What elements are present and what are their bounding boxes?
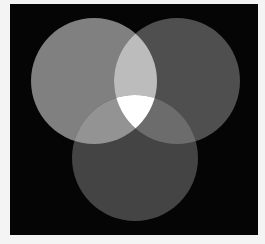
venn-diagram	[10, 4, 258, 235]
venn-diagram-frame	[10, 4, 258, 235]
